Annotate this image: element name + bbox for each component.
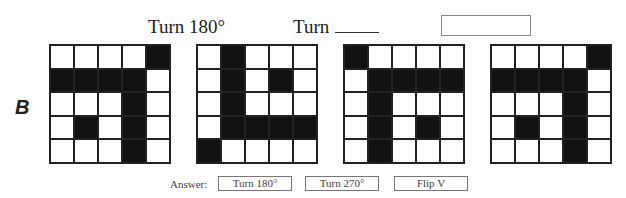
grid-cell (564, 46, 586, 68)
grid-cell (123, 93, 145, 115)
grid-cell (564, 117, 586, 139)
grid-turn-unknown (343, 44, 465, 164)
grid-cell (588, 140, 610, 162)
grid-cell (198, 117, 220, 139)
grid-cell (51, 46, 73, 68)
grid-cell (222, 70, 244, 92)
grid-cell (198, 140, 220, 162)
grid-cell (345, 93, 367, 115)
grid-cell (294, 46, 316, 68)
row-letter: B (15, 96, 29, 119)
grid-cell (441, 93, 463, 115)
grid-cell (75, 93, 97, 115)
grid-cell (99, 140, 121, 162)
grid-cell (99, 70, 121, 92)
grid-original (49, 44, 171, 164)
grid-cell (123, 46, 145, 68)
grid-cell (246, 140, 268, 162)
grid-cell (75, 46, 97, 68)
grid-cell (246, 46, 268, 68)
grid-cell (147, 140, 169, 162)
grid-cell (51, 70, 73, 92)
grid-cell (441, 46, 463, 68)
grid-cell (270, 140, 292, 162)
grid-cell (417, 93, 439, 115)
grid-turn-180 (196, 44, 318, 164)
grid-cell (75, 140, 97, 162)
grid-cell (588, 46, 610, 68)
grid-cell (393, 46, 415, 68)
grid-cell (516, 70, 538, 92)
grid-cell (441, 70, 463, 92)
grid-cell (492, 93, 514, 115)
answer-input-box[interactable] (441, 15, 531, 36)
grid-cell (345, 140, 367, 162)
grid-cell (75, 117, 97, 139)
grid-cell (222, 140, 244, 162)
answer-option-turn-180[interactable]: Turn 180° (218, 176, 292, 191)
grid-cell (147, 46, 169, 68)
grid-cell (564, 140, 586, 162)
grid-cell (294, 117, 316, 139)
grid-cell (294, 70, 316, 92)
grid-cell (345, 117, 367, 139)
grid-cell (588, 70, 610, 92)
grid-cell (270, 93, 292, 115)
grid-cell (492, 70, 514, 92)
grid-blank-transform (490, 44, 612, 164)
grid-cell (246, 117, 268, 139)
grid-cell (222, 46, 244, 68)
grid-cell (369, 46, 391, 68)
grid-cell (369, 93, 391, 115)
label-turn-text: Turn (293, 16, 329, 37)
grid-cell (270, 46, 292, 68)
grid-cell (99, 117, 121, 139)
grid-cell (516, 117, 538, 139)
answer-option-turn-270[interactable]: Turn 270° (305, 176, 379, 191)
grid-cell (51, 93, 73, 115)
grid-cell (417, 117, 439, 139)
grid-cell (123, 70, 145, 92)
grid-cell (147, 70, 169, 92)
grid-cell (345, 70, 367, 92)
grid-cell (369, 70, 391, 92)
answer-label: Answer: (170, 178, 207, 190)
grid-cell (564, 70, 586, 92)
grid-cell (393, 93, 415, 115)
grid-cell (417, 70, 439, 92)
label-turn-blank: Turn (293, 16, 379, 38)
grid-cell (198, 46, 220, 68)
grid-cell (492, 117, 514, 139)
grid-cell (99, 93, 121, 115)
grid-cell (51, 117, 73, 139)
grid-cell (417, 140, 439, 162)
grid-cell (198, 93, 220, 115)
grid-cell (75, 70, 97, 92)
grid-cell (393, 70, 415, 92)
grid-cell (123, 117, 145, 139)
grid-cell (393, 140, 415, 162)
grid-cell (222, 117, 244, 139)
grid-cell (540, 70, 562, 92)
grid-cell (246, 93, 268, 115)
grid-cell (417, 46, 439, 68)
grid-cell (564, 93, 586, 115)
grid-cell (294, 93, 316, 115)
grid-cell (516, 93, 538, 115)
grid-cell (540, 46, 562, 68)
grid-cell (246, 70, 268, 92)
grid-cell (540, 117, 562, 139)
grid-cell (51, 140, 73, 162)
grid-cell (441, 140, 463, 162)
grid-cell (369, 140, 391, 162)
grid-cell (198, 70, 220, 92)
grid-cell (516, 140, 538, 162)
answer-option-flip-v[interactable]: Flip V (394, 176, 468, 191)
grid-cell (294, 140, 316, 162)
grid-cell (270, 117, 292, 139)
grid-cell (99, 46, 121, 68)
grid-cell (393, 117, 415, 139)
grid-cell (588, 93, 610, 115)
grid-cell (492, 46, 514, 68)
blank-line (335, 31, 379, 33)
